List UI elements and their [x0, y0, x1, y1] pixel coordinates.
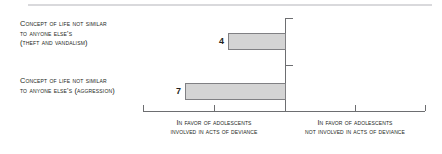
bar-chart-figure: Concept of life not similar to anyone el…	[0, 0, 442, 154]
axis-caption-line: In favor of adolescents	[143, 118, 285, 127]
x-axis-tick	[285, 105, 286, 111]
x-axis-tick	[425, 105, 426, 111]
bar-value-label: 7	[165, 83, 181, 100]
category-label-text: oncept of life not similar	[26, 76, 107, 85]
category-label-aggression: Concept of life not similar to anyone el…	[20, 76, 115, 95]
bar-aggression	[185, 83, 286, 100]
x-axis-tick	[214, 105, 215, 111]
category-label-line: to anyone else's	[20, 29, 107, 39]
x-axis-tick	[355, 105, 356, 111]
category-label-line: (theft and vandalism)	[20, 38, 107, 48]
vertical-axis-tick-middle	[286, 65, 293, 66]
axis-caption-text: n favor of adolescents	[320, 118, 393, 127]
axis-caption-not-involved: In favor of adolescents not involved in …	[285, 118, 425, 137]
top-divider-rule	[28, 4, 432, 6]
bar-value-label: 4	[208, 33, 224, 50]
vertical-axis-tick-top	[286, 18, 293, 19]
axis-caption-line: involved in acts of deviance	[143, 127, 285, 136]
horizontal-baseline-axis	[143, 111, 425, 112]
category-label-line: Concept of life not similar	[20, 19, 107, 29]
category-label-text: to anyone else's (aggression)	[20, 86, 115, 95]
x-axis-tick	[143, 105, 144, 111]
category-label-line: to anyone else's (aggression)	[20, 86, 115, 96]
category-label-line: Concept of life not similar	[20, 76, 115, 86]
axis-caption-involved: In favor of adolescents involved in acts…	[143, 118, 285, 137]
axis-caption-text: not involved in acts of deviance	[305, 127, 405, 136]
category-label-text: (theft and vandalism)	[20, 38, 88, 47]
axis-caption-line: not involved in acts of deviance	[285, 127, 425, 136]
category-label-text: oncept of life not similar	[26, 19, 107, 28]
axis-caption-line: In favor of adolescents	[285, 118, 425, 127]
category-label-text: to anyone else's	[20, 29, 72, 38]
bar-theft-vandalism	[228, 33, 286, 50]
axis-caption-text: involved in acts of deviance	[170, 127, 257, 136]
category-label-theft-vandalism: Concept of life not similar to anyone el…	[20, 19, 107, 48]
axis-caption-text: n favor of adolescents	[179, 118, 252, 127]
